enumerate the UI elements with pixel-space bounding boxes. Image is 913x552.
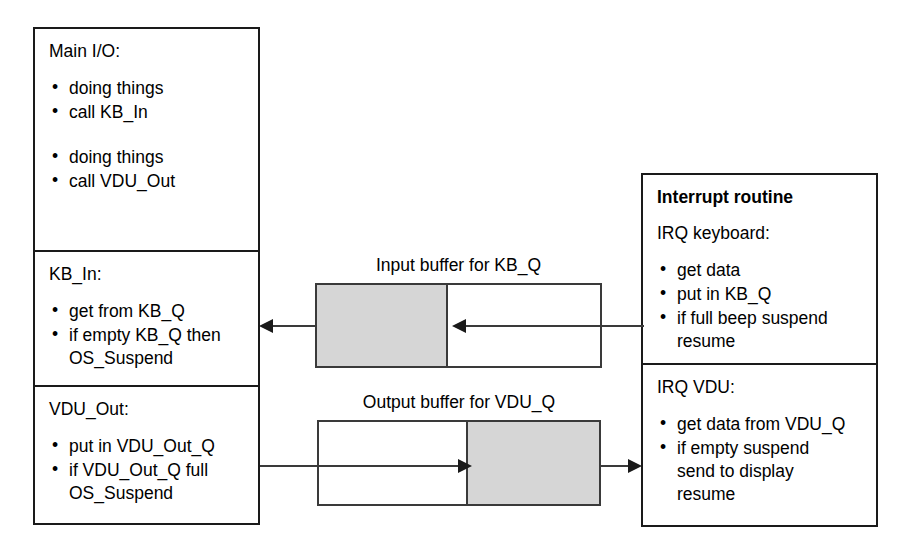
list-item: •get from KB_Q: [49, 300, 244, 323]
list-item-text: doing things: [69, 147, 163, 167]
list-item-text: if full beep suspend resume: [677, 308, 828, 351]
section-irq-vdu: IRQ VDU: •get data from VDU_Q •if empty …: [643, 365, 876, 525]
arrow-input-buffer-to-kb-in-line: [272, 325, 317, 327]
bullet-icon: •: [52, 100, 58, 123]
bullet-icon: •: [52, 434, 58, 457]
section-kb-in: KB_In: •get from KB_Q •if empty KB_Q the…: [35, 252, 258, 385]
arrow-vdu-out-to-output-buffer-line: [260, 465, 460, 467]
list-item: •doing things: [49, 77, 244, 100]
list-spacer: [49, 125, 244, 145]
list-item: •doing things: [49, 146, 244, 169]
list-item-text: get data from VDU_Q: [677, 414, 845, 434]
section-irq-keyboard-heading: IRQ keyboard:: [657, 223, 862, 245]
list-item: •if empty KB_Q then OS_Suspend: [49, 324, 244, 370]
section-kb-in-bullets: •get from KB_Q •if empty KB_Q then OS_Su…: [49, 300, 244, 370]
list-item: •put in VDU_Out_Q: [49, 435, 244, 458]
list-item-text: put in KB_Q: [677, 284, 771, 304]
section-irq-vdu-heading: IRQ VDU:: [657, 377, 862, 399]
arrow-vdu-out-to-output-buffer-head: [458, 459, 472, 473]
bullet-icon: •: [660, 436, 666, 459]
section-irq-vdu-bullets: •get data from VDU_Q •if empty suspend s…: [657, 413, 862, 506]
section-irq-keyboard: Interrupt routine IRQ keyboard: •get dat…: [643, 175, 876, 363]
bullet-icon: •: [660, 258, 666, 281]
list-item-text: call VDU_Out: [69, 171, 175, 191]
bullet-icon: •: [660, 412, 666, 435]
right-panel-box: Interrupt routine IRQ keyboard: •get dat…: [641, 173, 878, 527]
section-kb-in-heading: KB_In:: [49, 264, 244, 286]
bullet-icon: •: [52, 145, 58, 168]
list-item-text: get data: [677, 260, 740, 280]
bullet-icon: •: [52, 323, 58, 346]
section-main-io-heading: Main I/O:: [49, 41, 244, 63]
diagram-canvas: Main I/O: •doing things •call KB_In •doi…: [0, 0, 913, 552]
list-item: •if empty suspend send to display resume: [657, 437, 862, 506]
list-item-text: if empty KB_Q then OS_Suspend: [69, 325, 221, 368]
bullet-icon: •: [52, 299, 58, 322]
list-item-text: put in VDU_Out_Q: [69, 436, 215, 456]
list-item: •get data: [657, 259, 862, 282]
arrow-output-buffer-to-irq-vdu-head: [628, 459, 642, 473]
bullet-icon: •: [52, 76, 58, 99]
list-item-text: get from KB_Q: [69, 301, 185, 321]
list-item: •get data from VDU_Q: [657, 413, 862, 436]
section-main-io-bullets: •doing things •call KB_In •doing things …: [49, 77, 244, 193]
list-item: •if VDU_Out_Q full OS_Suspend: [49, 459, 244, 505]
bullet-icon: •: [660, 306, 666, 329]
list-item-text: if empty suspend send to display resume: [677, 438, 809, 504]
input-buffer-filled-region: [317, 285, 446, 366]
bullet-icon: •: [52, 458, 58, 481]
list-item-text: if VDU_Out_Q full OS_Suspend: [69, 460, 208, 503]
list-item: •if full beep suspend resume: [657, 307, 862, 353]
arrow-irq-to-input-buffer-line: [464, 325, 644, 327]
section-main-io: Main I/O: •doing things •call KB_In •doi…: [35, 29, 258, 250]
arrow-output-buffer-to-irq-vdu-line: [601, 465, 631, 467]
section-irq-keyboard-bullets: •get data •put in KB_Q •if full beep sus…: [657, 259, 862, 353]
section-vdu-out-bullets: •put in VDU_Out_Q •if VDU_Out_Q full OS_…: [49, 435, 244, 505]
bullet-icon: •: [52, 169, 58, 192]
list-item: •call KB_In: [49, 101, 244, 124]
list-item-text: call KB_In: [69, 102, 148, 122]
list-item: •put in KB_Q: [657, 283, 862, 306]
list-item: •call VDU_Out: [49, 170, 244, 193]
arrow-input-buffer-to-kb-in-head: [259, 319, 273, 333]
output-buffer-label: Output buffer for VDU_Q: [317, 392, 601, 413]
interrupt-routine-title: Interrupt routine: [657, 187, 862, 209]
input-buffer-label: Input buffer for KB_Q: [315, 255, 602, 276]
list-item-text: doing things: [69, 78, 163, 98]
bullet-icon: •: [660, 282, 666, 305]
output-buffer-empty-region: [319, 422, 466, 504]
arrow-irq-to-input-buffer-head: [452, 319, 466, 333]
output-buffer-filled-region: [468, 422, 599, 504]
section-vdu-out-heading: VDU_Out:: [49, 399, 244, 421]
left-panel-box: Main I/O: •doing things •call KB_In •doi…: [33, 27, 260, 525]
section-vdu-out: VDU_Out: •put in VDU_Out_Q •if VDU_Out_Q…: [35, 387, 258, 523]
